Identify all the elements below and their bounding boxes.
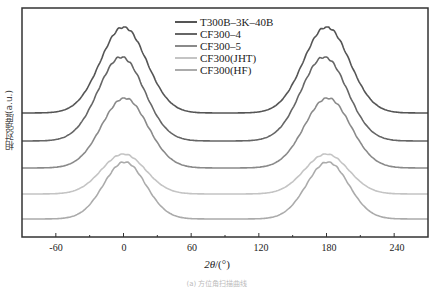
legend-item: CF300(JHT) (175, 52, 273, 64)
legend-swatch (175, 33, 197, 35)
x-axis-label: 2θ/(°) (0, 258, 434, 270)
x-tick-label: 0 (122, 242, 127, 253)
legend-item: CF300–5 (175, 40, 273, 52)
figure-caption: (a) 方位角扫描曲线 (0, 278, 434, 288)
series-line (22, 154, 428, 194)
legend-label: CF300–4 (200, 28, 241, 40)
legend-label: CF300(HF) (200, 64, 251, 76)
legend-label: T300B–3K–40B (200, 16, 273, 28)
x-tick-label: 120 (254, 242, 269, 253)
legend-label: CF300(JHT) (200, 52, 256, 64)
series-line (22, 162, 428, 219)
x-tick-label: 240 (390, 242, 405, 253)
legend-item: T300B–3K–40B (175, 16, 273, 28)
legend-item: CF300–4 (175, 28, 273, 40)
legend-swatch (175, 69, 197, 71)
legend-swatch (175, 45, 197, 47)
legend-swatch (175, 21, 197, 23)
x-tick-label: 60 (187, 242, 197, 253)
x-tick-label: -60 (49, 242, 62, 253)
legend-label: CF300–5 (200, 40, 241, 52)
x-tick-label: 180 (322, 242, 337, 253)
series-line (22, 98, 428, 168)
y-axis-label: 相对强度(a.u.) (2, 65, 16, 175)
legend-item: CF300(HF) (175, 64, 273, 76)
legend: T300B–3K–40B CF300–4 CF300–5 CF300(JHT) … (175, 16, 273, 76)
legend-swatch (175, 57, 197, 59)
